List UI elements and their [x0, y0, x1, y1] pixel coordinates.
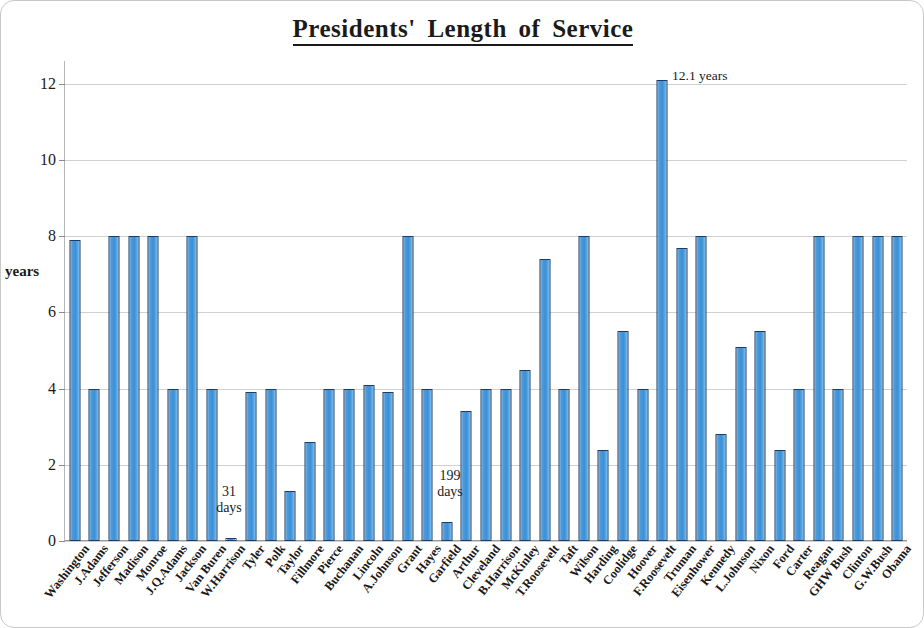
bar-slot [633, 61, 653, 541]
bar[interactable] [265, 389, 276, 541]
bar-slot [476, 61, 496, 541]
bar[interactable] [226, 538, 237, 541]
bar-slot [398, 61, 418, 541]
chart-frame: Presidents' Length of Service years 0246… [0, 0, 924, 628]
bar[interactable] [774, 450, 785, 541]
bar[interactable] [755, 331, 766, 541]
bar-slot [104, 61, 124, 541]
bar-slot [515, 61, 535, 541]
bar-slot [300, 61, 320, 541]
bar-slot [848, 61, 868, 541]
bar-slot [202, 61, 222, 541]
bar[interactable] [89, 389, 100, 541]
chart-title-text: Presidents' Length of Service [293, 15, 634, 46]
bar[interactable] [285, 491, 296, 541]
bar[interactable] [128, 236, 139, 541]
bar[interactable] [676, 248, 687, 541]
bar[interactable] [422, 389, 433, 541]
bar-slot [359, 61, 379, 541]
bar[interactable] [246, 392, 257, 541]
annotation-garfield: 199 days [425, 468, 475, 500]
bar[interactable] [187, 236, 198, 541]
bar-slot [868, 61, 888, 541]
bar[interactable] [343, 389, 354, 541]
y-axis-tick-label: 4 [48, 380, 56, 398]
bar[interactable] [696, 236, 707, 541]
annotation-f-roosevelt: 12.1 years [672, 68, 752, 84]
bar[interactable] [167, 389, 178, 541]
bar-slot [182, 61, 202, 541]
y-axis-title: years [5, 263, 39, 280]
bar-slot [163, 61, 183, 541]
bar-slot [65, 61, 85, 541]
bar[interactable] [872, 236, 883, 541]
bar[interactable] [304, 442, 315, 541]
bar[interactable] [441, 522, 452, 541]
y-axis-tick-label: 6 [48, 303, 56, 321]
bar-slot [692, 61, 712, 541]
bar[interactable] [148, 236, 159, 541]
bars-group [65, 61, 907, 541]
bar-slot [378, 61, 398, 541]
bar[interactable] [559, 389, 570, 541]
bar-slot [222, 61, 242, 541]
bar-slot [887, 61, 907, 541]
bar[interactable] [520, 370, 531, 541]
bar[interactable] [892, 236, 903, 541]
bar[interactable] [657, 80, 668, 541]
y-axis-tick-label: 12 [40, 75, 56, 93]
bar-slot [555, 61, 575, 541]
bar-slot [711, 61, 731, 541]
bar-slot [613, 61, 633, 541]
bar[interactable] [833, 389, 844, 541]
bar-slot [85, 61, 105, 541]
bar[interactable] [324, 389, 335, 541]
bar-slot [770, 61, 790, 541]
bar[interactable] [363, 385, 374, 541]
bar-slot [750, 61, 770, 541]
bar-slot [731, 61, 751, 541]
y-axis-tick-label: 10 [40, 151, 56, 169]
bar[interactable] [853, 236, 864, 541]
annotation-w-harrison: 31 days [206, 484, 252, 516]
plot-area: 024681012 [64, 61, 907, 541]
bar-slot [496, 61, 516, 541]
bar[interactable] [480, 389, 491, 541]
bar[interactable] [69, 240, 80, 541]
bar[interactable] [402, 236, 413, 541]
bar-slot [594, 61, 614, 541]
bar[interactable] [206, 389, 217, 541]
bar[interactable] [383, 392, 394, 541]
bar-slot [241, 61, 261, 541]
bar-slot [320, 61, 340, 541]
bar[interactable] [539, 259, 550, 541]
y-axis-tick-label: 8 [48, 227, 56, 245]
bar-slot [809, 61, 829, 541]
bar-slot [143, 61, 163, 541]
bar[interactable] [578, 236, 589, 541]
bar[interactable] [637, 389, 648, 541]
bar[interactable] [735, 347, 746, 541]
chart-title: Presidents' Length of Service [1, 15, 924, 43]
bar-slot [672, 61, 692, 541]
bar-slot [280, 61, 300, 541]
bar[interactable] [715, 434, 726, 541]
bar-slot [790, 61, 810, 541]
y-axis-tick-label: 0 [48, 532, 56, 550]
bar-slot [652, 61, 672, 541]
bar-slot [124, 61, 144, 541]
bar-slot [261, 61, 281, 541]
x-axis-labels-group: WashingtonJ.AdamsJeffersonMadisonMonroeJ… [64, 542, 906, 628]
bar[interactable] [794, 389, 805, 541]
y-axis-tick-label: 2 [48, 456, 56, 474]
bar-slot [829, 61, 849, 541]
bar[interactable] [500, 389, 511, 541]
bar[interactable] [598, 450, 609, 541]
bar[interactable] [618, 331, 629, 541]
bar[interactable] [813, 236, 824, 541]
bar-slot [574, 61, 594, 541]
bar-slot [535, 61, 555, 541]
bar-slot [339, 61, 359, 541]
bar[interactable] [108, 236, 119, 541]
